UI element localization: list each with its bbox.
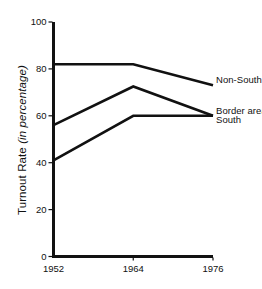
y-axis-ticks xyxy=(49,22,53,257)
series-lines xyxy=(54,64,214,160)
series-line xyxy=(54,116,214,161)
x-tick-label: 1952 xyxy=(34,263,74,274)
x-tick-label: 1964 xyxy=(113,263,153,274)
series-line xyxy=(54,64,214,85)
y-tick-label: 60 xyxy=(21,110,47,121)
x-tick-label: 1976 xyxy=(193,263,233,274)
chart-figure: Turnout Rate (in percentage) 02040608010… xyxy=(0,0,262,289)
plot-area xyxy=(0,0,262,289)
y-tick-label: 100 xyxy=(21,16,47,27)
y-tick-label: 80 xyxy=(21,63,47,74)
series-label-south: South xyxy=(216,114,241,125)
y-tick-label: 20 xyxy=(21,204,47,215)
series-line xyxy=(54,86,214,125)
y-tick-label: 0 xyxy=(21,251,47,262)
axis-lines xyxy=(52,22,213,257)
series-label-non-south: Non-South xyxy=(216,74,262,85)
y-tick-label: 40 xyxy=(21,157,47,168)
